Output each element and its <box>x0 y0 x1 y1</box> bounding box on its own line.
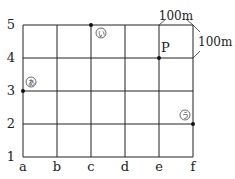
horizontal-scale-label: 100m <box>159 9 194 23</box>
y-label-1: 1 <box>7 149 15 164</box>
points: いPあう <box>21 23 195 126</box>
point-marker <box>157 56 161 60</box>
x-label-a: a <box>19 159 27 174</box>
point-marker <box>21 89 25 93</box>
x-axis-labels: abcdef <box>19 159 196 174</box>
y-label-5: 5 <box>7 17 15 32</box>
x-label-b: b <box>53 159 61 174</box>
grid-map-diagram: abcdef 12345 100m 100m いPあう <box>0 0 235 179</box>
point-marker <box>89 23 93 27</box>
y-label-2: 2 <box>7 116 15 131</box>
y-label-3: 3 <box>7 83 15 98</box>
vertical-scale-label: 100m <box>198 35 233 49</box>
x-label-c: c <box>87 159 94 174</box>
y-label-4: 4 <box>7 50 15 65</box>
x-label-d: d <box>121 159 129 174</box>
point-label: P <box>161 40 170 55</box>
y-axis-labels: 12345 <box>7 17 15 164</box>
scale-indicator: 100m 100m <box>159 9 233 58</box>
point-label: う <box>182 112 189 120</box>
point-marker <box>191 122 195 126</box>
point-label: い <box>98 30 105 38</box>
x-label-e: e <box>155 159 163 174</box>
x-label-f: f <box>191 159 197 174</box>
point-label: あ <box>28 79 35 87</box>
